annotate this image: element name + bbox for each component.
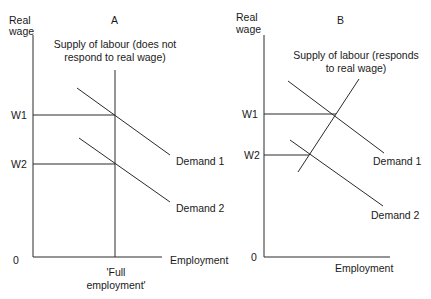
panel-a-demand-1-curve xyxy=(77,88,170,155)
panel-a-full-employment-1: 'Full xyxy=(107,266,126,278)
panel-b-w2-label: W2 xyxy=(244,149,260,161)
panel-b-x-label: Employment xyxy=(335,262,393,274)
panel-a-demand-2-curve xyxy=(79,138,170,202)
panel-a-y-label-2: wage xyxy=(8,25,34,37)
panel-a-demand-2-label: Demand 2 xyxy=(176,202,225,214)
panel-b-y-label-2: wage xyxy=(235,23,261,35)
panel-b-supply-label-1: Supply of labour (responds xyxy=(293,49,419,61)
panel-b-w1-label: W1 xyxy=(242,108,258,120)
panel-a-demand-1-label: Demand 1 xyxy=(176,155,225,167)
panel-a-w2-label: W2 xyxy=(11,158,27,170)
panel-b-supply-curve xyxy=(298,79,359,172)
panel-a-supply-label-1: Supply of labour (does not xyxy=(54,38,177,50)
panel-a-x-label: Employment xyxy=(170,254,228,266)
panel-b-y-label-1: Real xyxy=(236,11,258,23)
panel-a-origin-label: 0 xyxy=(13,254,19,266)
panel-b-demand-2-label: Demand 2 xyxy=(371,209,420,221)
panel-a-supply-label-2: respond to real wage) xyxy=(64,51,166,63)
panel-b-demand-1-curve xyxy=(288,81,384,153)
panel-a-full-employment-2: employment' xyxy=(86,279,145,291)
panel-b-origin-label: 0 xyxy=(251,251,257,263)
panel-a: Real wage A Supply of labour (does not r… xyxy=(8,14,228,291)
panel-b-title: B xyxy=(337,14,344,26)
labour-market-diagram: Real wage A Supply of labour (does not r… xyxy=(0,0,431,299)
panel-b: Real wage B Supply of labour (responds t… xyxy=(235,11,422,274)
panel-a-title: A xyxy=(111,14,118,26)
panel-a-w1-label: W1 xyxy=(11,109,27,121)
panel-b-supply-label-2: to real wage) xyxy=(326,62,387,74)
panel-b-demand-1-label: Demand 1 xyxy=(373,155,422,167)
panel-b-demand-2-curve xyxy=(290,140,383,206)
